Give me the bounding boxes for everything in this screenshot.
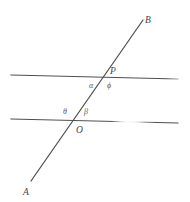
point-label-a: A (23, 188, 29, 198)
geometry-figure: A B O P α ϕ θ β (0, 0, 190, 202)
transversal-line (31, 20, 143, 181)
point-label-p: P (110, 67, 116, 77)
point-label-b: B (145, 16, 151, 26)
angle-label-phi: ϕ (107, 82, 111, 90)
angle-label-theta: θ (63, 108, 67, 116)
lower-horizontal-line (11, 119, 178, 123)
point-label-o: O (76, 126, 83, 136)
figure-canvas (0, 0, 190, 202)
angle-label-alpha: α (89, 82, 93, 90)
upper-horizontal-line (11, 75, 178, 79)
angle-label-beta: β (84, 108, 88, 116)
